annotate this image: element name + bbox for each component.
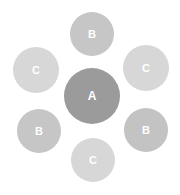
node-b-top: B <box>70 12 114 56</box>
node-label: A <box>88 90 97 102</box>
node-b-lower-left: B <box>17 109 61 153</box>
node-label: B <box>35 126 43 137</box>
node-label: B <box>142 125 150 136</box>
node-c-upper-right: C <box>123 45 169 91</box>
node-c-upper-left: C <box>13 47 59 93</box>
node-label: B <box>88 29 96 40</box>
radial-diagram: A B C B C B C <box>0 0 180 195</box>
node-b-lower-right: B <box>124 108 168 152</box>
node-c-bottom: C <box>71 138 115 182</box>
center-node-a: A <box>64 68 120 124</box>
node-label: C <box>32 65 40 76</box>
node-label: C <box>142 63 150 74</box>
node-label: C <box>89 155 97 166</box>
